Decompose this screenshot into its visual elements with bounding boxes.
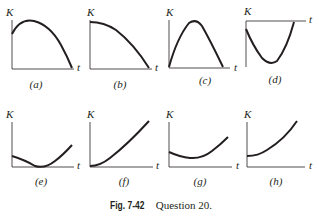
y-axis-label: K — [165, 6, 174, 18]
panel-a: K t (a) — [5, 6, 81, 91]
panel-f: K t (f) — [86, 108, 160, 188]
panel-label: (g) — [194, 175, 207, 188]
y-axis-label: K — [243, 5, 252, 17]
x-axis-label: t — [234, 61, 238, 73]
x-axis-label: t — [236, 159, 240, 171]
panel-e: K t (e) — [5, 108, 81, 188]
y-axis-label: K — [5, 108, 14, 120]
panel-label: (a) — [30, 78, 43, 91]
panel-g: K t (g) — [165, 108, 240, 188]
panel-b: K t (b) — [86, 6, 159, 91]
panel-h: K t (h) — [243, 108, 313, 188]
x-axis-label: t — [77, 61, 81, 73]
y-axis-label: K — [243, 108, 252, 120]
panel-label: (e) — [35, 175, 48, 188]
panel-label: (b) — [114, 78, 127, 91]
x-axis-label: t — [309, 13, 313, 25]
x-axis-label: t — [155, 61, 159, 73]
caption-text: Question 20. — [156, 199, 212, 211]
caption-number: Fig. 7-42 — [110, 200, 144, 211]
y-axis-label: K — [165, 108, 174, 120]
panel-label: (d) — [269, 73, 282, 86]
figure-canvas: K t (a) K t (b) K t (c) K t (d) K t — [0, 0, 319, 218]
panel-label: (h) — [270, 175, 283, 188]
y-axis-label: K — [5, 6, 14, 18]
y-axis-label: K — [86, 6, 95, 18]
panel-label: (f) — [119, 175, 130, 188]
x-axis-label: t — [309, 159, 313, 171]
y-axis-label: K — [86, 108, 95, 120]
panel-d: K t (d) — [243, 5, 313, 86]
figure-caption: Fig. 7-42 Question 20. — [0, 199, 319, 211]
panel-c: K t (c) — [165, 6, 238, 87]
x-axis-label: t — [156, 159, 160, 171]
x-axis-label: t — [77, 159, 81, 171]
panel-label: (c) — [199, 74, 212, 87]
